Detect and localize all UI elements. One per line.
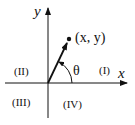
y-axis-label: y xyxy=(34,4,41,19)
x-axis-label: x xyxy=(118,66,125,81)
quadrant-label-iii: (III) xyxy=(12,97,30,108)
point-label: (x, y) xyxy=(75,31,105,45)
angle-arc xyxy=(59,62,72,83)
angle-label: θ xyxy=(73,64,80,78)
polar-coordinate-diagram: y x (x, y) θ (I) (II) (III) (IV) xyxy=(0,0,135,125)
quadrant-label-i: (I) xyxy=(99,65,110,76)
quadrant-label-iv: (IV) xyxy=(63,99,82,110)
quadrant-label-ii: (II) xyxy=(14,66,29,77)
point-marker xyxy=(67,37,71,41)
position-vector xyxy=(48,43,67,83)
